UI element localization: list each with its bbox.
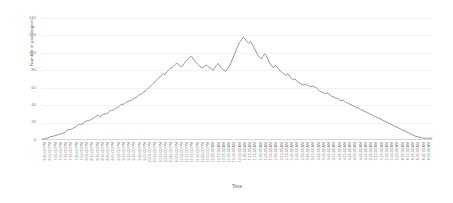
line-chart: Number of passengers 020406080100120140 … (0, 0, 453, 203)
x-tick-label: 10:15:00 PM (154, 142, 158, 162)
x-tick-label: 7:15:00 PM (60, 142, 64, 160)
x-tick-label: 4:55:00 AM (365, 142, 369, 160)
x-tick-label: 7:35:00 PM (70, 142, 74, 160)
y-axis-tick-labels: 020406080100120140 (10, 0, 36, 203)
x-tick-label: 3:55:00 AM (333, 142, 337, 160)
x-tick-label: 10:25:00 PM (160, 142, 164, 162)
x-tick-label: 11:45:00 PM (202, 142, 206, 162)
x-tick-label: 2:15:00 AM (281, 142, 285, 160)
x-tick-label: 3:35:00 AM (323, 142, 327, 160)
x-tick-label: 1:35:00 AM (260, 142, 264, 160)
x-tick-label: 3:15:00 AM (312, 142, 316, 160)
x-tick-label: 9:15:00 PM (123, 142, 127, 160)
x-tick-label: 5:35:00 AM (386, 142, 390, 160)
x-axis-tick-labels: 6:45:00 PM6:55:00 PM7:05:00 PM7:15:00 PM… (42, 141, 432, 183)
data-series-line (42, 18, 432, 140)
x-tick-label: 4:35:00 AM (354, 142, 358, 160)
x-tick-label: 5:55:00 AM (396, 142, 400, 160)
x-tick-label: 2:45:00 AM (296, 142, 300, 160)
x-tick-label: 7:45:00 PM (76, 142, 80, 160)
x-tick-label: 8:35:00 PM (102, 142, 106, 160)
plot-area (42, 18, 432, 140)
x-tick-label: 6:55:00 AM (428, 142, 432, 160)
x-tick-label: 9:35:00 PM (133, 142, 137, 160)
x-tick-label: 7:55:00 PM (81, 142, 85, 160)
x-tick-label: 2:05:00 AM (275, 142, 279, 160)
x-tick-label: 12:55:00 AM (239, 142, 243, 162)
x-tick-label: 7:05:00 PM (55, 142, 59, 160)
x-tick-label: 3:25:00 AM (318, 142, 322, 160)
y-tick-label: 120 (12, 33, 36, 37)
y-tick-label: 140 (12, 16, 36, 20)
x-axis-title: Time (42, 184, 432, 189)
y-tick-label: 40 (12, 103, 36, 107)
x-tick-label: 6:15:00 AM (407, 142, 411, 160)
y-tick-label: 20 (12, 120, 36, 124)
x-tick-label: 6:55:00 PM (49, 142, 53, 160)
x-tick-label: 9:05:00 PM (118, 142, 122, 160)
x-tick-label: 5:25:00 AM (381, 142, 385, 160)
x-tick-label: 4:45:00 AM (360, 142, 364, 160)
y-tick-label: 100 (12, 51, 36, 55)
x-tick-label: 9:45:00 PM (139, 142, 143, 160)
y-tick-label: 80 (12, 68, 36, 72)
x-tick-label: 10:45:00 PM (170, 142, 174, 162)
y-tick-label: 0 (12, 138, 36, 142)
x-tick-label: 9:55:00 PM (144, 142, 148, 160)
x-tick-label: 11:35:00 PM (197, 142, 201, 162)
x-tick-label: 12:05:00 AM (212, 142, 216, 162)
y-tick-label: 60 (12, 86, 36, 90)
x-tick-label: 2:55:00 AM (302, 142, 306, 160)
x-tick-label: 1:25:00 AM (254, 142, 258, 160)
x-tick-label: 10:55:00 PM (176, 142, 180, 162)
x-tick-label: 8:15:00 PM (91, 142, 95, 160)
x-tick-label: 6:05:00 AM (402, 142, 406, 160)
x-tick-label: 12:25:00 AM (223, 142, 227, 162)
x-tick-label: 6:45:00 AM (423, 142, 427, 160)
x-tick-label: 8:55:00 PM (112, 142, 116, 160)
x-tick-label: 11:25:00 PM (191, 142, 195, 162)
x-tick-label: 4:05:00 AM (339, 142, 343, 160)
x-tick-label: 12:45:00 AM (233, 142, 237, 162)
x-tick-label: 12:15:00 AM (218, 142, 222, 162)
x-tick-label: 8:25:00 PM (97, 142, 101, 160)
x-tick-label: 5:15:00 AM (375, 142, 379, 160)
x-tick-label: 11:05:00 PM (181, 142, 185, 162)
x-tick-label: 1:05:00 AM (244, 142, 248, 160)
x-tick-label: 4:15:00 AM (344, 142, 348, 160)
x-tick-label: 1:45:00 AM (265, 142, 269, 160)
x-tick-label: 6:35:00 AM (417, 142, 421, 160)
